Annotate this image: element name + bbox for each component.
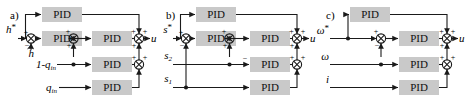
panel-b-pid-label-row2-right: PID xyxy=(261,32,279,44)
panel-b-sum2-sign-plus: + xyxy=(222,27,227,36)
panel-c-sum3-sign-a: + xyxy=(440,53,445,62)
panel-a-sum2-sign-plus: + xyxy=(66,27,71,36)
panel-b-pid-label-row4: PID xyxy=(261,81,279,93)
panel-c-sum2-sign-a: + xyxy=(439,27,444,36)
panel-c-pid-label-row2: PID xyxy=(410,32,428,44)
panel-c-pid-label-top: PID xyxy=(361,8,379,20)
panel-a-sum3-sign-b: + xyxy=(143,27,148,36)
panel-c-input-i: i xyxy=(326,73,329,85)
panel-a-node-row3 xyxy=(71,62,75,66)
panel-a-output-u: u xyxy=(151,32,157,44)
panel-a-pid-label-top: PID xyxy=(53,8,71,20)
panel-b-sum4-sign-b: + xyxy=(301,53,306,62)
panel-a-sum1-sign-minus: − xyxy=(25,41,30,50)
panel-a-sum4-sign-a: + xyxy=(132,53,137,62)
panel-b-input-s2: s2 xyxy=(164,49,172,63)
panel-a-pid-label-row3: PID xyxy=(103,58,121,70)
panel-a-pid-label-row2-right: PID xyxy=(103,32,121,44)
panel-b-sum1-sign-minus: − xyxy=(180,41,185,50)
diagram-canvas: PID PID PID PID PID a) h* h 1-qin qin u … xyxy=(0,0,470,104)
panel-a-sum4-sign-b: + xyxy=(143,53,148,62)
panel-a-sum1-sign-plus: + xyxy=(24,28,29,37)
panel-a-sum3-sign-a: + xyxy=(131,27,136,36)
panel-b-pid-label-top: PID xyxy=(207,8,225,20)
panel-b-row3-sign: − xyxy=(243,54,248,63)
panel-a xyxy=(18,7,150,95)
panel-b-sum3-sign-c: + xyxy=(290,41,295,50)
figure-block-diagrams: PID PID PID PID PID a) h* h 1-qin qin u … xyxy=(0,0,470,104)
panel-c-sum1-sign-minus: − xyxy=(375,41,380,50)
panel-b-sum2-sign-plus2: + xyxy=(223,41,228,50)
panel-a-sum2-sign-plus2: + xyxy=(67,41,72,50)
panel-c-sum2-sign-b: + xyxy=(451,27,456,36)
svg-text:h: h xyxy=(29,47,35,59)
panel-b xyxy=(173,7,309,95)
panel-b-node-s2 xyxy=(227,62,231,66)
panel-b-output-u: u xyxy=(310,32,316,44)
panel-b-input-s1: s1 xyxy=(164,72,172,86)
panel-b-pid-label-row3: PID xyxy=(261,58,279,70)
panel-c-pid-label-row3: PID xyxy=(410,58,428,70)
panel-b-sum3-sign-b: + xyxy=(301,27,306,36)
panel-a-input-qin: qin xyxy=(46,81,57,95)
panel-c-label: c) xyxy=(326,9,335,22)
svg-text:h*: h* xyxy=(6,22,17,35)
panel-a-pid-label-row4: PID xyxy=(103,81,121,93)
panel-c-sum2-sign-c: + xyxy=(440,41,445,50)
panel-c-input-omega: ω xyxy=(321,50,329,62)
panel-a-input-h-star: h* xyxy=(6,22,17,35)
panel-c-pid-label-row4: PID xyxy=(410,81,428,93)
panel-c-output-u: u xyxy=(459,32,465,44)
panel-b-sum3-sign-a: + xyxy=(289,27,294,36)
panel-b-input-s-star: s* xyxy=(163,22,172,35)
panel-a-label: a) xyxy=(10,9,19,22)
panel-c-sum3-sign-b: + xyxy=(451,53,456,62)
panel-c-sum1-sign-plus: + xyxy=(374,27,379,36)
panel-b-sum1-sign-plus: + xyxy=(179,28,184,37)
panel-c xyxy=(330,7,458,95)
panel-a-sum3-sign-c: + xyxy=(132,41,137,50)
panel-c-node-omega xyxy=(379,62,383,66)
panel-b-label: b) xyxy=(166,9,176,22)
panel-a-input-one-minus-qin: 1-qin xyxy=(36,58,57,72)
panel-c-input-omega-star: ω* xyxy=(317,23,330,36)
panel-b-sum4-sign-a: + xyxy=(290,53,295,62)
